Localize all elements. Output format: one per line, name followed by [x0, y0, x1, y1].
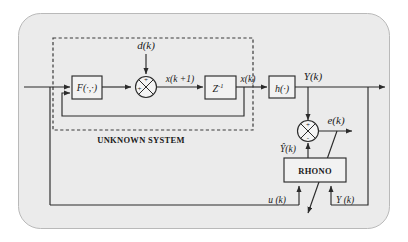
label-state: x(k)	[240, 74, 256, 85]
block-observer-label: RHONO	[298, 166, 332, 176]
block-output-map-label: h(·)	[275, 83, 290, 95]
label-next-state: x(k +1)	[165, 74, 194, 85]
sum2-sign-plus: +	[306, 121, 310, 129]
sum1-sign-input: +	[138, 85, 142, 93]
block-nonlinear-map-label: F(·,·)	[76, 82, 98, 94]
label-output: Y(k)	[304, 70, 323, 83]
label-observer-input-y: Y (k)	[336, 195, 354, 206]
summing-junction-state: + +	[136, 76, 157, 98]
label-observer-input-u: u (k)	[268, 195, 286, 206]
unit-delay-exponent: -1	[218, 82, 223, 89]
summing-junction-error: + -	[298, 121, 319, 142]
caption-unknown-system: UNKNOWN SYSTEM	[97, 135, 185, 145]
label-estimated-output: Ŷ(k)	[280, 143, 296, 155]
sum1-sign-disturbance: +	[144, 76, 148, 84]
block-diagram: F(·,·) + + d(k) x(k +1) Z-1 x(k) h(·)	[0, 0, 408, 242]
figure-canvas: F(·,·) + + d(k) x(k +1) Z-1 x(k) h(·)	[0, 0, 408, 242]
label-error: e(k)	[327, 114, 344, 127]
label-disturbance: d(k)	[137, 39, 155, 52]
